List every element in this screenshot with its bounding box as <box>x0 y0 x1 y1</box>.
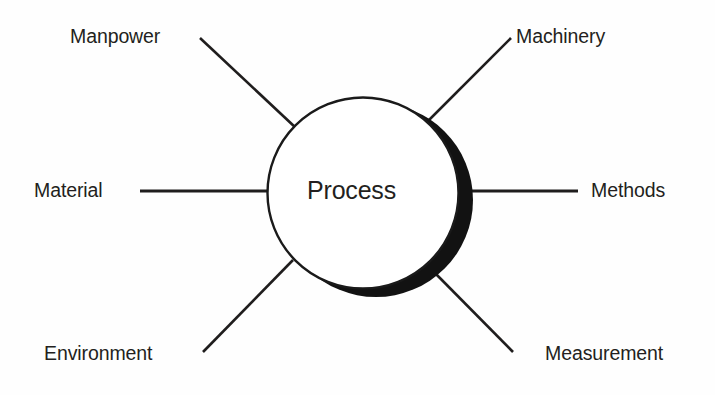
spoke-label-methods: Methods <box>591 181 665 201</box>
spoke-label-environment: Environment <box>44 344 152 364</box>
spoke-label-measurement: Measurement <box>545 344 663 364</box>
spoke-label-manpower: Manpower <box>70 27 160 47</box>
spoke-label-material: Material <box>34 181 103 201</box>
spoke-diagram-canvas: Process Manpower Machinery Material Meth… <box>0 0 715 395</box>
spoke-label-machinery: Machinery <box>516 27 605 47</box>
